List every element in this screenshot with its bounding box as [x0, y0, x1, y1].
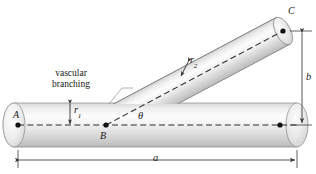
point-label-C: C — [288, 5, 295, 16]
point-marker-main-right-end — [277, 122, 282, 127]
vascular-branching-figure: vascular branching A B C r1 r2 θ b a — [0, 0, 316, 174]
dimension-label-r2: r2 — [190, 54, 198, 69]
caption-line-1: vascular — [36, 68, 106, 79]
caption-line-2: branching — [36, 79, 106, 90]
point-marker-A — [15, 122, 20, 127]
point-label-A: A — [13, 109, 19, 120]
r1-subscript: 1 — [78, 112, 82, 120]
point-label-B: B — [100, 130, 106, 141]
dimension-label-r1: r1 — [74, 104, 82, 119]
point-marker-C — [280, 28, 285, 33]
angle-label-theta: θ — [138, 110, 143, 122]
point-marker-B — [103, 122, 108, 127]
dimension-label-b: b — [306, 71, 311, 83]
r2-subscript: 2 — [194, 62, 198, 70]
caption-vascular-branching: vascular branching — [36, 68, 106, 89]
dimension-label-a: a — [153, 152, 158, 164]
